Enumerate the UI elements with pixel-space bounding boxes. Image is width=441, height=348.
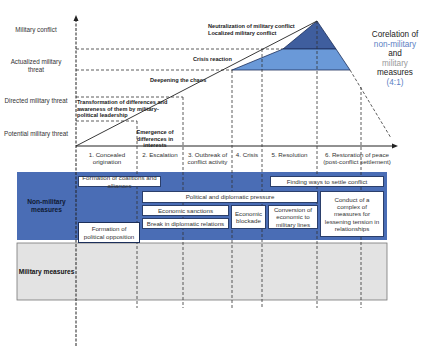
box-economic-conversion: Conversion of economic to military lines [268, 205, 318, 229]
box-political-pressure: Political and diplomatic pressure [142, 191, 318, 203]
box-break-diplomatic: Break in diplomatic relations [142, 218, 229, 229]
correlation-measures: measures [355, 68, 435, 78]
box-settle-conflict: Finding ways to settle conflict [270, 176, 384, 187]
level-military-conflict: Military conflict [2, 26, 70, 34]
correlation-non-military: non-military [355, 40, 435, 50]
phase-2: 2. Escalation [138, 151, 182, 158]
note-emergence: Emergence of differences in interests [126, 129, 184, 149]
box-lessening-tension: Conduct of a complex of measures for les… [320, 191, 384, 237]
box-political-opposition: Formation of political opposition [78, 222, 140, 243]
box-coalitions: Formation of coalitions and alliances [78, 176, 161, 187]
phase-6: 6. Restoration of peace (post-conflict s… [318, 151, 396, 166]
correlation-and: and [355, 49, 435, 59]
phase-5: 5. Resolution [263, 151, 316, 158]
note-neutralization: Neutralization of military conflict [208, 23, 295, 30]
box-economic-blockade: Economic blockade [231, 205, 266, 229]
level-directed-threat: Directed military threat [2, 97, 70, 105]
note-localized: Localized military conflict [208, 30, 276, 37]
phase-1: 1. Concealed origination [78, 151, 136, 166]
category-military: Military measures [17, 243, 76, 300]
correlation-legend: Corelation of non-military and military … [355, 30, 435, 88]
level-potential-threat: Potential military threat [2, 130, 70, 138]
correlation-military: military [355, 59, 435, 69]
correlation-ratio: (4:1) [355, 78, 435, 88]
note-deepening: Deepening the chaos [150, 77, 206, 84]
box-economic-sanctions: Economic sanctions [142, 205, 229, 216]
phase-3: 3. Outbreak of conflict activity [184, 151, 231, 166]
level-actualized-threat: Actualized military threat [2, 58, 70, 73]
note-transformation: Transformation of differences and awaren… [77, 99, 177, 119]
note-crisis-reaction: Crisis reaction [193, 56, 232, 63]
correlation-title: Corelation of [355, 30, 435, 40]
category-non-military: Non-military measures [17, 172, 76, 240]
phase-4: 4. Crisis [233, 151, 261, 158]
